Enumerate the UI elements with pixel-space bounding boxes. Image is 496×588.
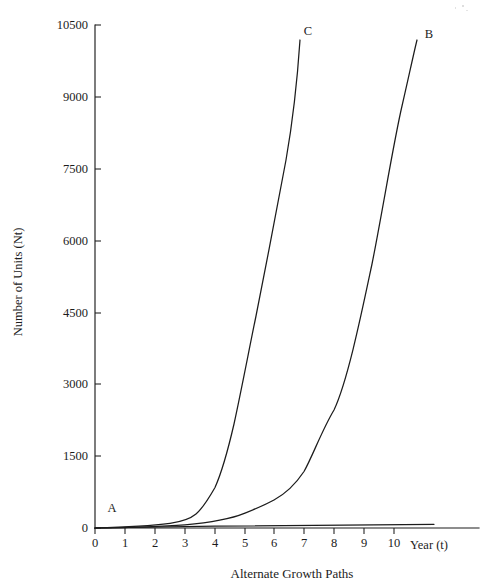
figure-caption: Alternate Growth Paths [231, 566, 354, 581]
series-label-b: B [425, 27, 433, 41]
y-tick-label-6000: 6000 [63, 234, 88, 248]
series-label-a: A [107, 501, 116, 515]
x-tick-label-1: 1 [122, 536, 128, 550]
x-tick-label-6: 6 [271, 536, 277, 550]
curve-c [95, 40, 300, 528]
x-tick-label-0: 0 [92, 536, 98, 550]
growth-paths-figure: Number of Units (Nt) 0 1500 3000 4500 60… [0, 0, 496, 588]
y-tick-label-0: 0 [82, 521, 88, 535]
x-tick-label-5: 5 [242, 536, 248, 550]
y-tick-label-4500: 4500 [63, 306, 88, 320]
x-tick-label-10: 10 [388, 536, 401, 550]
line-chart: Number of Units (Nt) 0 1500 3000 4500 60… [0, 0, 496, 588]
x-tick-label-8: 8 [331, 536, 337, 550]
x-tick-label-9: 9 [361, 536, 367, 550]
x-axis-title: Year (t) [410, 538, 448, 552]
y-tick-label-3000: 3000 [63, 377, 88, 391]
x-tick-label-4: 4 [212, 536, 219, 550]
x-tick-label-7: 7 [301, 536, 307, 550]
x-tick-label-3: 3 [182, 536, 188, 550]
y-tick-label-7500: 7500 [63, 162, 88, 176]
y-axis-title: Number of Units (Nt) [11, 228, 25, 337]
y-tick-label-9000: 9000 [63, 90, 88, 104]
curve-b [95, 40, 417, 528]
x-axis-ticks: 0 1 2 3 4 5 6 7 8 9 10 [92, 528, 400, 550]
series-label-c: C [304, 24, 312, 38]
y-tick-label-1500: 1500 [63, 449, 88, 463]
x-tick-label-2: 2 [152, 536, 158, 550]
y-tick-label-10500: 10500 [57, 18, 88, 32]
y-axis-ticks: 0 1500 3000 4500 6000 7500 9000 10500 [57, 18, 101, 535]
